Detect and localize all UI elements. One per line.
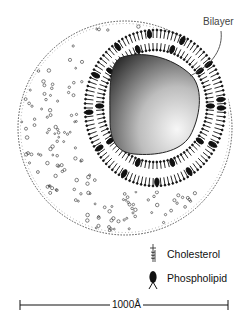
bilayer-label: Bilayer: [203, 16, 234, 27]
phospholipid-icon: [149, 271, 157, 289]
scale-bar-label: 1000Å: [110, 299, 143, 310]
legend-phospholipid-label: Phospholipid: [167, 272, 227, 284]
cholesterol-icon: [150, 244, 156, 262]
legend-cholesterol-label: Cholesterol: [167, 248, 220, 260]
